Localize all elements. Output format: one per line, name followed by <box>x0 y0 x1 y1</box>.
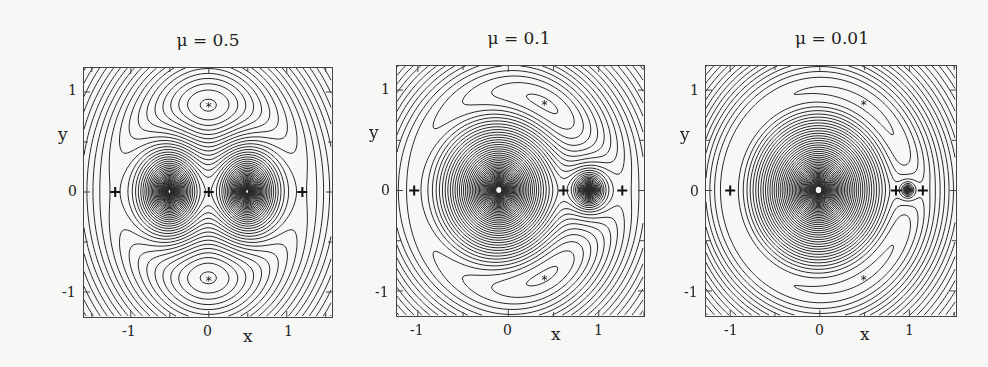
x-tick-label: -1 <box>122 323 136 339</box>
y-axis-label: y <box>58 124 68 144</box>
contour-plot <box>84 68 332 317</box>
panel-title: μ = 0.5 <box>176 30 239 50</box>
y-tick-label: 0 <box>381 182 390 198</box>
contour-plot <box>397 66 644 316</box>
x-tick-label: 1 <box>284 323 293 339</box>
y-axis-label: y <box>369 122 379 142</box>
y-tick-label: 1 <box>68 82 77 98</box>
y-axis-label: y <box>680 124 690 144</box>
x-tick-label: 0 <box>815 322 824 338</box>
x-tick-label: 1 <box>905 322 914 338</box>
x-axis-label: x <box>551 324 561 344</box>
x-axis-label: x <box>243 326 253 346</box>
y-tick-label: 0 <box>690 183 699 199</box>
plot-frame <box>396 65 645 317</box>
panel-title: μ = 0.01 <box>795 28 869 48</box>
plot-frame <box>83 67 333 318</box>
contour-plot <box>706 66 956 316</box>
y-tick-label: -1 <box>375 284 389 300</box>
panel-title: μ = 0.1 <box>487 28 550 48</box>
y-tick-label: 0 <box>68 183 77 199</box>
plot-frame <box>705 65 957 317</box>
x-tick-label: -1 <box>724 322 738 338</box>
x-tick-label: -1 <box>410 322 424 338</box>
y-tick-label: 1 <box>381 81 390 97</box>
y-tick-label: 1 <box>690 82 699 98</box>
x-axis-label: x <box>860 324 870 344</box>
y-tick-label: -1 <box>62 284 76 300</box>
x-tick-label: 0 <box>503 322 512 338</box>
x-tick-label: 1 <box>594 322 603 338</box>
y-tick-label: -1 <box>684 284 698 300</box>
x-tick-label: 0 <box>203 323 212 339</box>
